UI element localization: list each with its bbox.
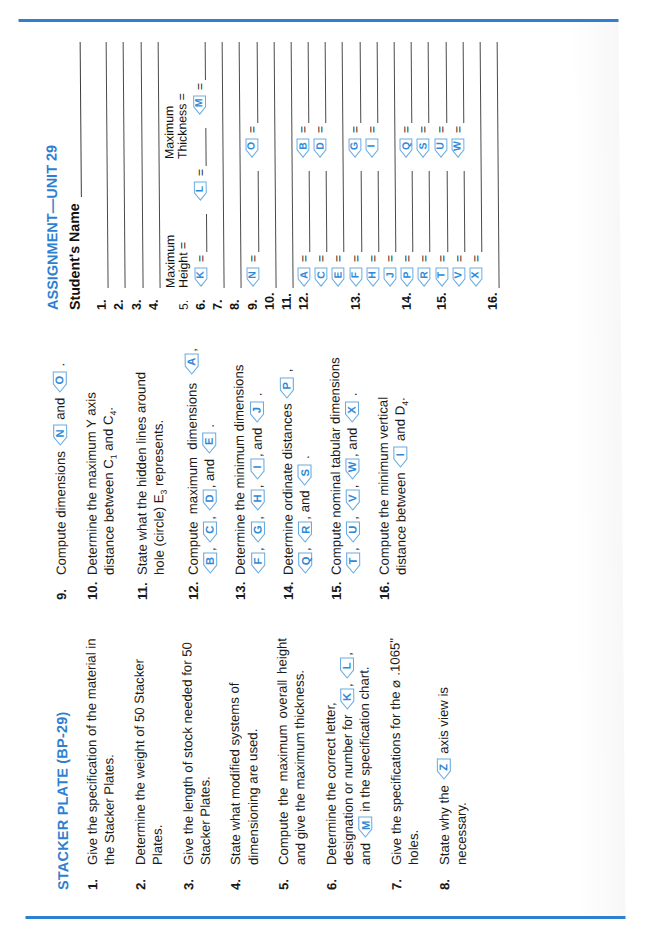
answer-blank-line[interactable] (296, 171, 311, 252)
answer-cell (110, 42, 126, 288)
answer-blank-line[interactable] (260, 42, 276, 288)
answer-blank-line[interactable] (416, 171, 431, 252)
question-text: Determine the weight of 50 Stacker Plate… (130, 638, 166, 865)
balloon-letter: X (468, 267, 482, 287)
answer-cell: M= (192, 42, 207, 116)
answer-cell: H= (364, 171, 379, 288)
balloon-callout-a: A (184, 353, 199, 375)
question-number: 15. (328, 575, 363, 600)
question-text: Determine the minimum dimensions F, G, H… (230, 348, 266, 575)
balloon-callout-p: P (279, 377, 294, 399)
answer-cell: U= (432, 42, 447, 159)
question-item: 16.Compute the minimum vertical distance… (374, 348, 413, 600)
answer-blank-line[interactable] (144, 42, 160, 288)
answer-row: J= (377, 42, 396, 310)
student-name-rule[interactable] (67, 42, 82, 197)
answer-blank-line[interactable] (278, 42, 294, 288)
balloon-callout-a: A (296, 267, 310, 287)
equals-sign: = (452, 123, 464, 136)
answer-cell: J= (381, 42, 397, 288)
answer-blank-line[interactable] (415, 42, 430, 123)
balloon-letter: K (193, 267, 207, 287)
balloon-callout-j: J (249, 401, 264, 423)
answer-blank-line[interactable] (346, 42, 361, 123)
answer-blank-line[interactable] (110, 42, 126, 288)
balloon-callout-s: S (297, 464, 312, 486)
answer-blank-line[interactable] (449, 42, 464, 123)
answer-blank-line[interactable] (484, 42, 500, 288)
balloon-callout-i: I (249, 458, 264, 480)
answer-balloon-wrap: I (364, 136, 378, 159)
balloon-callout-l: L (340, 657, 355, 679)
balloon-callout-b: B (295, 138, 309, 158)
answer-row-number: 8. (228, 288, 242, 310)
answer-blank-line[interactable] (381, 42, 397, 252)
answer-cell: F= (347, 171, 362, 288)
answer-blank-line[interactable] (312, 42, 327, 123)
balloon-callout-k: K (340, 688, 355, 710)
balloon-letter: J (249, 401, 264, 423)
answer-blank-line[interactable] (363, 42, 378, 123)
answer-balloon-wrap: L (193, 179, 207, 202)
student-name-field[interactable]: Student's Name (65, 42, 83, 310)
answer-row: 9.N=O= (240, 42, 259, 310)
answer-blank-line[interactable] (364, 171, 379, 252)
answer-blank-line[interactable] (450, 171, 465, 252)
balloon-callout-m: M (358, 816, 373, 838)
answer-blank-line[interactable] (398, 42, 413, 123)
answer-row: 15.T=U= (429, 42, 448, 310)
balloon-callout-p: P (400, 267, 414, 287)
answer-balloon-wrap: S (416, 136, 430, 159)
answer-blank-line[interactable] (432, 42, 447, 123)
answer-blank-line[interactable] (127, 42, 143, 288)
equals-sign: = (350, 252, 362, 265)
question-item: 3.Give the length of stock needed for 50… (178, 638, 214, 890)
balloon-letter: W (450, 138, 464, 158)
answer-cell (127, 42, 143, 288)
balloon-letter: G (347, 138, 361, 158)
answer-balloon-wrap: G (347, 136, 361, 159)
answer-blank-line[interactable] (313, 171, 328, 252)
answer-blank-line[interactable] (226, 42, 242, 288)
balloon-callout-m: M (192, 95, 206, 115)
answer-blank-line[interactable] (192, 42, 206, 80)
balloon-callout-h: H (250, 489, 265, 511)
answer-row-number: 6. (194, 288, 208, 310)
answer-cell: C= (313, 171, 328, 288)
question-text: Determine ordinate distances P , Q, R, a… (278, 348, 314, 575)
balloon-letter: I (249, 458, 264, 480)
answer-blank-line[interactable] (93, 42, 109, 288)
balloon-letter: M (358, 816, 373, 838)
subscript: 1 (108, 454, 118, 459)
answer-blank-line[interactable] (329, 42, 345, 252)
answer-blank-line[interactable] (209, 42, 225, 288)
answer-balloon-wrap: P (400, 265, 414, 288)
answer-balloon-wrap: T (434, 265, 448, 288)
answer-blank-line[interactable] (244, 171, 259, 252)
label-line: Height = (176, 171, 190, 288)
answer-blank-line[interactable] (433, 171, 448, 252)
answer-row-number: 15. (434, 288, 448, 310)
answer-blank-line[interactable] (243, 42, 258, 123)
question-number: 6. (323, 865, 375, 890)
balloon-callout-x: X (468, 267, 482, 287)
questions-column-middle: 9.Compute dimensions N and O .10.Determi… (51, 348, 426, 600)
question-item: 2.Determine the weight of 50 Stacker Pla… (130, 638, 166, 890)
question-text: Compute the maximum overall height and g… (274, 638, 310, 865)
answer-row: 14.P=Q= (395, 42, 414, 310)
balloon-letter: F (348, 267, 362, 287)
balloon-callout-w: W (450, 138, 464, 158)
answer-blank-line[interactable] (347, 171, 362, 252)
answer-blank-line[interactable] (467, 42, 483, 252)
question-text: Compute dimensions N and O . (51, 348, 70, 575)
question-item: 12.Compute maximum dimensions A, B, C, D… (183, 348, 219, 600)
balloon-callout-n: N (53, 424, 68, 446)
answer-blank-line[interactable] (193, 214, 207, 252)
answer-blank-line[interactable] (192, 128, 206, 166)
balloon-callout-f: F (348, 267, 362, 287)
balloon-callout-u: U (346, 521, 361, 543)
answer-blank-line[interactable] (399, 171, 414, 252)
equals-sign: = (367, 252, 379, 265)
answer-blank-line[interactable] (295, 42, 310, 123)
question-text: State why the Z axis view is necessary. (434, 638, 470, 865)
